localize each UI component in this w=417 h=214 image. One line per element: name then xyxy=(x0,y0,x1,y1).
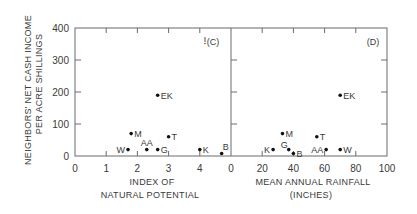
point-marker xyxy=(126,148,130,152)
y-axis-title-line1: NEIGHBORS' NET CASH INCOME xyxy=(23,15,33,165)
data-point: EK xyxy=(338,91,355,101)
y-tick-label: 200 xyxy=(52,87,69,98)
x-axis-title-d: MEAN ANNUAL RAINFALL (INCHES) xyxy=(255,177,370,200)
x-tick-label: 0 xyxy=(72,163,78,174)
point-label: K xyxy=(264,145,270,155)
x-tick-label: 3 xyxy=(166,163,172,174)
point-marker xyxy=(338,93,342,97)
data-point: B xyxy=(220,142,229,155)
data-point: K xyxy=(264,145,275,155)
x-axis-title-c-line2: NATURAL POTENTIAL xyxy=(101,190,200,200)
x-tick-label: 2 xyxy=(135,163,141,174)
chart-canvas: NEIGHBORS' NET CASH INCOME PER ACRE SHIL… xyxy=(0,0,417,214)
x-axis-title-d-line2: (INCHES) xyxy=(290,190,332,200)
data-point: W xyxy=(338,145,352,155)
y-tick-labels: 0100200300400 xyxy=(52,23,69,162)
point-label: EK xyxy=(161,91,173,101)
data-point: G xyxy=(156,145,168,155)
y-tick-label: 300 xyxy=(52,55,69,66)
x-tick-label: 60 xyxy=(319,163,331,174)
x-tick-label: 0 xyxy=(228,163,234,174)
point-marker xyxy=(315,135,319,139)
point-label: T xyxy=(172,132,178,142)
point-label: B xyxy=(223,142,229,152)
scatter-figure: NEIGHBORS' NET CASH INCOME PER ACRE SHIL… xyxy=(0,0,417,214)
panel-label-d: (D) xyxy=(367,37,380,47)
x-axis-title-d-line1: MEAN ANNUAL RAINFALL xyxy=(255,177,370,187)
data-point: W xyxy=(117,145,130,155)
data-point: EK xyxy=(156,91,173,101)
x-tick-label: 20 xyxy=(257,163,269,174)
data-point: B xyxy=(292,149,303,159)
x-axis-title-c: INDEX OF NATURAL POTENTIAL xyxy=(101,177,200,200)
point-label: AA xyxy=(311,145,323,155)
point-label: M xyxy=(285,129,293,139)
data-point: M xyxy=(281,129,293,139)
panel-label-c: (C) xyxy=(207,37,220,47)
point-label: W xyxy=(343,145,352,155)
point-label: B xyxy=(296,149,302,159)
data-point: T xyxy=(315,132,326,142)
x-tick-label: 4 xyxy=(197,163,203,174)
point-marker xyxy=(156,93,160,97)
data-point: G xyxy=(281,140,291,152)
point-label: T xyxy=(320,132,326,142)
point-marker xyxy=(167,135,171,139)
point-marker xyxy=(156,148,160,152)
point-label: G xyxy=(281,140,288,150)
y-tick-label: 0 xyxy=(63,151,69,162)
point-label: W xyxy=(117,145,126,155)
data-point: AA xyxy=(141,138,153,152)
point-marker xyxy=(145,148,149,152)
x-tick-label: 80 xyxy=(350,163,362,174)
x-tick-label: 1 xyxy=(103,163,109,174)
artifact-mark xyxy=(204,37,206,44)
x-tick-label: 100 xyxy=(379,163,396,174)
x-tick-labels: 01234020406080100 xyxy=(72,163,396,174)
point-marker xyxy=(292,152,296,156)
point-marker xyxy=(338,148,342,152)
point-label: K xyxy=(203,145,209,155)
point-label: EK xyxy=(343,91,355,101)
x-tick-label: 40 xyxy=(288,163,300,174)
point-marker xyxy=(281,132,285,136)
y-tick-label: 400 xyxy=(52,23,69,34)
point-marker xyxy=(129,132,133,136)
point-label: AA xyxy=(141,138,153,148)
y-axis-title-line2: PER ACRE SHILLINGS xyxy=(34,34,44,134)
y-axis-title: NEIGHBORS' NET CASH INCOME PER ACRE SHIL… xyxy=(23,15,44,165)
point-marker xyxy=(271,148,275,152)
point-marker xyxy=(324,148,328,152)
data-point: T xyxy=(167,132,178,142)
data-points: EKMTWAAGKBEKMTKGBAAW xyxy=(117,91,356,159)
data-point: AA xyxy=(311,145,328,155)
x-axis-title-c-line1: INDEX OF xyxy=(130,177,175,187)
y-tick-label: 100 xyxy=(52,119,69,130)
point-marker xyxy=(198,148,202,152)
point-label: G xyxy=(161,145,168,155)
